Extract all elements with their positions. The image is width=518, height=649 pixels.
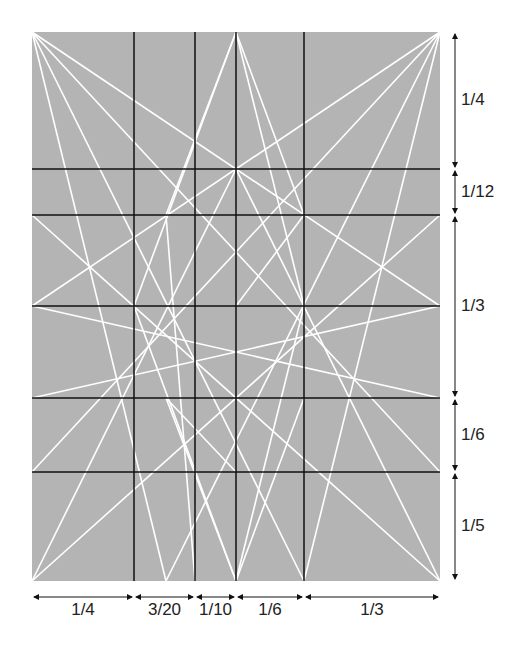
column-proportion-label: 1/4 [71,600,95,620]
row-proportion-label: 1/5 [461,516,485,536]
proportion-diagram [0,0,518,649]
column-proportion-label: 3/20 [148,600,181,620]
column-proportion-label: 1/6 [258,600,282,620]
row-proportion-label: 1/12 [461,182,494,202]
row-proportion-label: 1/3 [461,296,485,316]
row-proportion-label: 1/6 [461,425,485,445]
column-proportion-label: 1/10 [199,600,232,620]
column-proportion-label: 1/3 [360,600,384,620]
row-proportion-label: 1/4 [461,90,485,110]
